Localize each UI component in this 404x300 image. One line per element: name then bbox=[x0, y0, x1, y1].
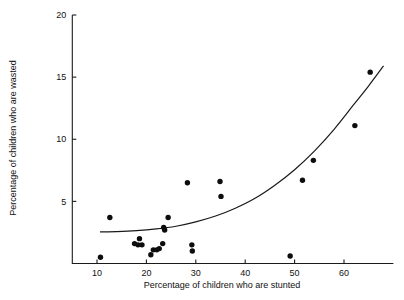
y-tick-label: 10 bbox=[56, 134, 66, 144]
data-point bbox=[190, 248, 195, 253]
data-point bbox=[218, 194, 223, 199]
x-tick-label: 50 bbox=[290, 268, 300, 278]
data-point bbox=[352, 123, 357, 128]
data-point bbox=[107, 215, 112, 220]
data-points bbox=[98, 69, 373, 260]
y-axis-title: Percentage of children who are wasted bbox=[8, 60, 18, 216]
fit-curve bbox=[100, 66, 384, 232]
y-tick-label: 5 bbox=[61, 197, 66, 207]
x-tick-label: 30 bbox=[191, 268, 201, 278]
x-tick-label: 40 bbox=[240, 268, 250, 278]
tick-marks bbox=[72, 15, 344, 264]
data-point bbox=[98, 255, 103, 260]
axes bbox=[72, 15, 393, 264]
data-point bbox=[165, 215, 170, 220]
data-point bbox=[148, 252, 153, 257]
axis-spines bbox=[72, 15, 393, 264]
x-axis-title: Percentage of children who are stunted bbox=[144, 280, 301, 290]
data-point bbox=[189, 242, 194, 247]
data-point bbox=[137, 236, 142, 241]
x-tick-label: 60 bbox=[339, 268, 349, 278]
fit-curve-path bbox=[100, 66, 384, 232]
data-point bbox=[217, 179, 222, 184]
data-point bbox=[160, 241, 165, 246]
y-axis-tick-labels: 5101520 bbox=[56, 10, 66, 206]
x-tick-label: 10 bbox=[92, 268, 102, 278]
chart-canvas: 102030405060 5101520 Percentage of child… bbox=[0, 0, 404, 300]
y-tick-label: 20 bbox=[56, 10, 66, 20]
data-point bbox=[162, 227, 167, 232]
data-point bbox=[157, 246, 162, 251]
data-point bbox=[185, 180, 190, 185]
x-tick-label: 20 bbox=[141, 268, 151, 278]
data-point bbox=[367, 69, 372, 74]
x-axis-tick-labels: 102030405060 bbox=[92, 268, 349, 278]
data-point bbox=[139, 242, 144, 247]
scatter-plot-figure: 102030405060 5101520 Percentage of child… bbox=[0, 0, 404, 300]
data-point bbox=[287, 253, 292, 258]
data-point bbox=[311, 158, 316, 163]
data-point bbox=[300, 178, 305, 183]
y-tick-label: 15 bbox=[56, 72, 66, 82]
